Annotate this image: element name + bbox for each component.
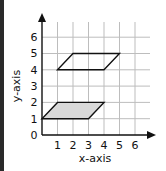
svg-text:6: 6 xyxy=(132,139,139,152)
origin-label: 0 xyxy=(31,129,38,142)
svg-text:5: 5 xyxy=(31,47,38,60)
y-tick-labels: 1 2 3 4 5 6 xyxy=(31,31,38,126)
svg-text:4: 4 xyxy=(101,139,108,152)
svg-text:1: 1 xyxy=(54,139,61,152)
svg-text:2: 2 xyxy=(70,139,77,152)
x-axis-label: x-axis xyxy=(79,152,112,165)
svg-text:4: 4 xyxy=(31,64,38,77)
x-axis-arrow-icon xyxy=(147,131,156,139)
y-axis-arrow-icon xyxy=(38,13,46,22)
y-axis-label: y-axis xyxy=(10,70,23,103)
svg-text:5: 5 xyxy=(116,139,123,152)
shaded-parallelogram xyxy=(42,102,104,118)
svg-text:6: 6 xyxy=(31,31,38,44)
svg-text:2: 2 xyxy=(31,96,38,109)
coordinate-plane: 0 1 2 3 4 5 6 1 2 3 4 5 6 x-axis y-axis xyxy=(0,0,166,171)
x-tick-labels: 1 2 3 4 5 6 xyxy=(54,139,139,152)
svg-text:1: 1 xyxy=(31,113,38,126)
svg-text:3: 3 xyxy=(85,139,92,152)
svg-text:3: 3 xyxy=(31,80,38,93)
